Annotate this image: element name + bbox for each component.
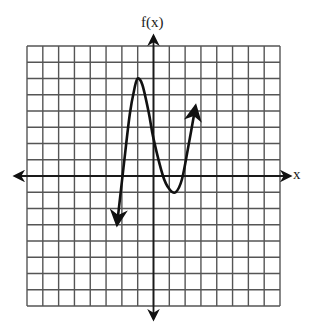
y-axis-label: f(x) [141,14,164,31]
function-curve [117,78,195,224]
x-axis-label: x [293,166,301,183]
graph-area [0,0,314,331]
